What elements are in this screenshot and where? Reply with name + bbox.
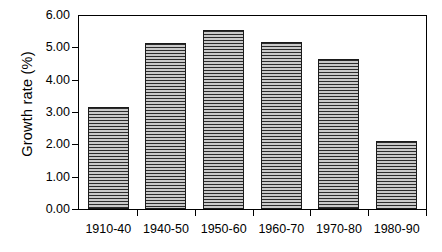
bar: [203, 30, 244, 209]
y-axis-tick-label: 4.00: [24, 74, 70, 86]
bar: [145, 43, 186, 209]
bar: [318, 59, 359, 209]
bar-group: [368, 15, 426, 209]
y-axis-tick-label: 0.00: [24, 203, 70, 215]
bar-group: [137, 15, 195, 209]
y-axis-tick-label: 6.00: [24, 9, 70, 21]
y-axis-tick-label: 5.00: [24, 41, 70, 53]
y-axis-tick-label: 2.00: [24, 138, 70, 150]
x-axis-tick-label: 1980-90: [361, 222, 433, 236]
bar-group: [253, 15, 311, 209]
bar: [376, 141, 417, 209]
bar-group: [310, 15, 368, 209]
x-axis-tick-mark: [310, 210, 311, 216]
bar: [88, 107, 129, 209]
bar-group: [195, 15, 253, 209]
y-axis-tick-label: 3.00: [24, 106, 70, 118]
x-axis-tick-mark: [368, 210, 369, 216]
y-axis-tick-label: 1.00: [24, 171, 70, 183]
bars-layer: [80, 15, 426, 209]
x-axis-tick-mark: [195, 210, 196, 216]
bar-chart-figure: Growth rate (%) 0.001.002.003.004.005.00…: [0, 0, 442, 252]
x-axis-tick-mark: [253, 210, 254, 216]
bar: [261, 42, 302, 209]
x-axis-tick-mark: [137, 210, 138, 216]
x-axis-tick-mark: [426, 210, 427, 216]
bar-group: [80, 15, 138, 209]
